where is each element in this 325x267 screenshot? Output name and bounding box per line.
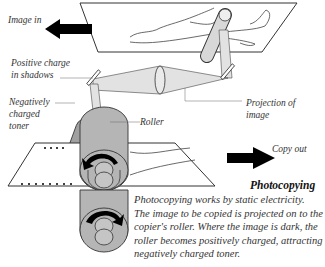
original-document-sheet	[80, 3, 297, 52]
positive-charge-label: Positive charge in shadows	[11, 57, 70, 81]
diagram-caption: Photocopying works by static electricity…	[134, 193, 325, 261]
caption-line: The image to be copied is projected on t…	[134, 207, 325, 221]
copy-out-label: Copy out	[272, 143, 307, 155]
positive-charge-line1: Positive charge	[11, 57, 70, 69]
roller-label: Roller	[140, 116, 164, 128]
negative-toner-line2: charged	[9, 108, 50, 120]
projection-label: Projection of image	[246, 97, 296, 121]
copy-out-arrow	[227, 147, 275, 169]
projection-line2: image	[246, 109, 296, 121]
caption-line: Photocopying works by static electricity…	[134, 193, 325, 207]
image-in-arrow	[45, 19, 92, 39]
lens	[155, 66, 165, 94]
caption-line: roller becomes positively charged, attra…	[134, 234, 325, 248]
lower-roller	[80, 190, 128, 252]
drum-roller	[80, 107, 128, 191]
negative-toner-label: Negatively charged toner	[9, 96, 50, 132]
caption-line: copier's roller. Where the image is dark…	[134, 220, 325, 234]
caption-line: negatively charged toner.	[134, 247, 325, 261]
image-in-label: Image in	[8, 14, 42, 26]
projection-line1: Projection of	[246, 97, 296, 109]
leader-projection	[185, 88, 242, 101]
diagram-title: Photocopying	[250, 179, 315, 191]
negative-toner-line1: Negatively	[9, 96, 50, 108]
negative-toner-line3: toner	[9, 120, 50, 132]
positive-charge-line2: in shadows	[11, 69, 70, 81]
